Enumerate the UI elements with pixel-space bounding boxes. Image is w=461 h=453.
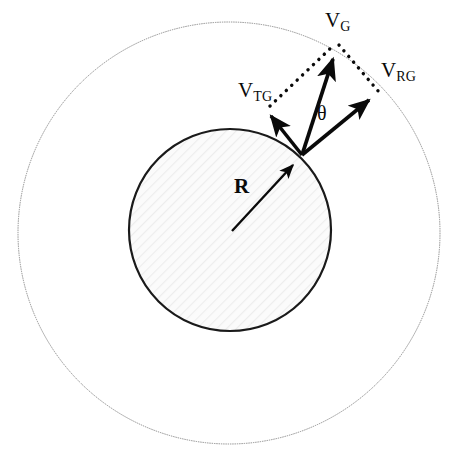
label-v-rg-base: V — [381, 58, 396, 82]
label-v-g-base: V — [325, 8, 340, 32]
label-radius: R — [234, 176, 249, 197]
label-v-g-sub: G — [340, 19, 350, 34]
label-v-tg-sub: TG — [253, 89, 272, 104]
dotted-construction-line-tg-g — [270, 44, 335, 106]
label-v-g: VG — [325, 10, 350, 34]
velocity-vector-diagram: VG VTG VRG θ R — [0, 0, 461, 453]
label-v-tg-base: V — [238, 78, 253, 102]
label-v-tg: VTG — [238, 80, 272, 104]
label-v-rg-sub: RG — [396, 69, 416, 84]
label-v-rg: VRG — [381, 60, 416, 84]
label-theta: θ — [317, 103, 327, 123]
dotted-construction-line-g-rg — [339, 45, 379, 92]
